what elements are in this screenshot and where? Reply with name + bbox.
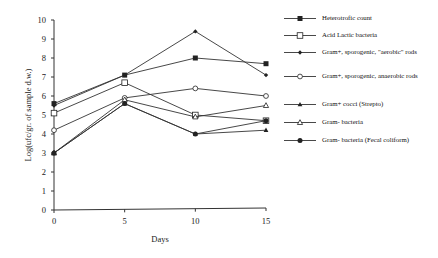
y-tick-label: 0 — [42, 205, 46, 215]
y-tick-label: 6 — [42, 91, 46, 101]
y-tick-label: 1 — [42, 186, 46, 196]
open-square-marker-icon — [297, 33, 303, 39]
axes: 012345678910051015 — [38, 15, 271, 226]
legend-key-icon — [282, 100, 318, 109]
y-axis-title: Log(ufc/gr. of sample d.w.) — [23, 68, 33, 161]
filled-square-marker-icon — [193, 56, 198, 61]
filled-circle-marker-icon — [193, 132, 198, 137]
legend-key-icon — [282, 118, 318, 127]
legend-key-icon — [282, 14, 318, 23]
legend-item: Gram+, sporogenic, "aerobic" rods — [282, 48, 438, 57]
open-diamond-marker-icon — [264, 94, 269, 99]
x-tick-label: 10 — [191, 216, 200, 226]
filled-square-marker-icon — [264, 61, 269, 66]
legend-key-icon — [282, 72, 318, 81]
x-axis — [54, 208, 266, 210]
x-tick-label: 5 — [123, 216, 127, 226]
y-tick-label: 5 — [42, 110, 46, 120]
filled-square-marker-icon — [298, 16, 303, 21]
open-square-marker-icon — [51, 110, 57, 116]
legend-key-icon — [282, 48, 318, 57]
legend-key-icon — [282, 136, 318, 145]
legend-item: Acid Lactic bacteria — [282, 31, 438, 40]
diamond-marker-icon — [264, 73, 268, 77]
open-triangle-marker-icon — [263, 103, 268, 108]
legend-item: Heterotrofic count — [282, 14, 438, 23]
series-group — [51, 29, 269, 155]
legend-label: Acid Lactic bacteria — [322, 31, 438, 40]
legend-label: Gram+ cocci (Strepto) — [322, 100, 438, 109]
legend-item: Gram- bacteria — [282, 118, 438, 127]
legend-label: Gram- bacteria — [322, 118, 438, 127]
diamond-marker-icon — [298, 50, 302, 54]
filled-circle-marker-icon — [122, 101, 127, 106]
y-tick-label: 7 — [42, 72, 46, 82]
legend-item: Gram+, sporogenic, anaerobic rods — [282, 72, 438, 81]
y-tick-label: 2 — [42, 167, 46, 177]
series-line — [52, 101, 269, 155]
y-tick-label: 4 — [42, 129, 47, 139]
legend-item: Gram- bacteria (Fecal coliform) — [282, 136, 438, 145]
open-diamond-marker-icon — [298, 74, 303, 79]
series-line — [52, 29, 268, 108]
legend-label: Gram+, sporogenic, "aerobic" rods — [322, 48, 438, 57]
legend-item: Gram+ cocci (Strepto) — [282, 100, 438, 109]
diamond-marker-icon — [193, 29, 197, 33]
x-tick-label: 0 — [52, 216, 56, 226]
legend-label: Gram- bacteria (Fecal coliform) — [322, 136, 438, 145]
open-diamond-marker-icon — [193, 86, 198, 91]
filled-circle-marker-icon — [52, 151, 57, 156]
open-diamond-marker-icon — [52, 128, 57, 133]
filled-triangle-marker-icon — [264, 128, 269, 132]
x-axis-title: Days — [151, 234, 168, 244]
legend-label: Gram+, sporogenic, anaerobic rods — [322, 72, 438, 81]
legend-key-icon — [282, 31, 318, 40]
y-tick-label: 9 — [42, 34, 46, 44]
filled-circle-marker-icon — [298, 138, 303, 143]
y-tick-label: 8 — [42, 53, 46, 63]
open-square-marker-icon — [122, 80, 128, 86]
filled-circle-marker-icon — [264, 118, 269, 123]
y-tick-label: 10 — [38, 15, 47, 25]
series-line — [52, 101, 269, 155]
y-tick-label: 3 — [42, 148, 46, 158]
legend-label: Heterotrofic count — [322, 14, 438, 23]
x-tick-label: 15 — [262, 216, 271, 226]
